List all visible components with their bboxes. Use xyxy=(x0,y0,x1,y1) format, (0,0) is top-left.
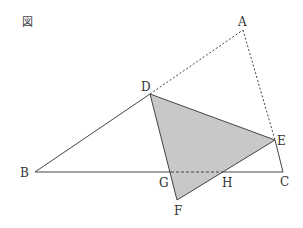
figure-title: 図 xyxy=(22,16,33,29)
shaded-triangle-def xyxy=(150,94,275,200)
dashed-segment-ae xyxy=(243,30,275,140)
label-d: D xyxy=(141,80,151,94)
dashed-segment-da xyxy=(150,30,243,94)
label-f: F xyxy=(174,204,182,218)
label-h: H xyxy=(222,176,232,190)
label-e: E xyxy=(277,134,286,148)
label-b: B xyxy=(20,166,29,180)
geometry-figure: 図 A B C D E F G H xyxy=(0,0,303,228)
segment-bd xyxy=(35,94,150,172)
label-a: A xyxy=(237,15,247,29)
label-g: G xyxy=(159,176,169,190)
label-c: C xyxy=(280,175,289,189)
